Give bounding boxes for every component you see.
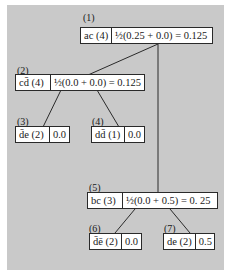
edge-2-3 — [43, 90, 61, 127]
node-2-value: ½(0.0 + 0.0) = 0.125 — [50, 75, 144, 90]
node-3-value: 0.0 — [49, 127, 69, 142]
node-3-itemset: d̄e (2) — [16, 127, 49, 142]
edge-1-2 — [88, 44, 158, 75]
node-5-itemset: bc (3) — [88, 193, 122, 208]
node-4: dd̄ (1) 0.0 — [91, 126, 145, 143]
node-7-itemset: de (2) — [164, 234, 195, 249]
node-6-itemset: d̄ē (2) — [90, 234, 121, 249]
node-7: de (2) 0.5 — [163, 233, 215, 250]
node-3: d̄e (2) 0.0 — [15, 126, 70, 143]
node-2: cd̄ (4) ½(0.0 + 0.0) = 0.125 — [15, 74, 145, 91]
node-5-value: ½(0.0 + 0.5) = 0. 25 — [122, 193, 213, 208]
node-5: bc (3) ½(0.0 + 0.5) = 0. 25 — [87, 192, 218, 209]
node-6-value: 0.0 — [121, 234, 141, 249]
node-6: d̄ē (2) 0.0 — [89, 233, 142, 250]
edge-5-6 — [115, 209, 135, 233]
node-2-itemset: cd̄ (4) — [16, 75, 50, 90]
node-1-itemset: ac (4) — [81, 28, 111, 43]
node-4-itemset: dd̄ (1) — [92, 127, 124, 142]
node-4-value: 0.0 — [124, 127, 144, 142]
node-1-label: (1) — [83, 13, 95, 23]
node-7-value: 0.5 — [195, 234, 215, 249]
node-1: ac (4) ½(0.25 + 0.0) = 0.125 — [80, 27, 213, 44]
node-1-value: ½(0.25 + 0.0) = 0.125 — [111, 28, 210, 43]
